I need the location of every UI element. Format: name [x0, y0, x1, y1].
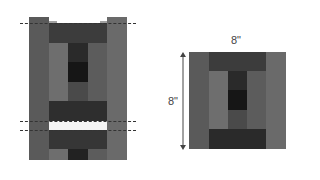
lower-left-strip	[49, 149, 68, 160]
height-dimension-arrow-icon	[180, 52, 186, 150]
block-top-band	[209, 52, 266, 71]
cut-line-mid-1	[20, 121, 136, 122]
left-outer-strip	[29, 17, 49, 160]
center-darkest	[68, 62, 88, 82]
block-mid-left	[209, 71, 228, 129]
block-bottom-band	[209, 129, 266, 149]
cut-line-top	[20, 23, 136, 24]
center-top	[68, 43, 88, 62]
block-left-strip	[189, 52, 209, 149]
quilt-block	[189, 52, 286, 149]
lower-right-strip	[88, 149, 107, 160]
block-center-top	[228, 71, 247, 90]
height-label: 8"	[168, 95, 178, 107]
bottom-band	[49, 101, 107, 121]
right-outer-strip	[107, 17, 127, 160]
arrow-left-icon	[41, 10, 57, 14]
mid-right-strip	[88, 43, 107, 101]
lower-band	[49, 130, 107, 149]
block-center-bottom	[228, 110, 247, 129]
cut-gap	[49, 121, 107, 130]
cut-line-mid-2	[20, 130, 136, 131]
mid-left-strip	[49, 43, 68, 101]
lower-center	[68, 149, 88, 160]
width-label: 8"	[231, 34, 241, 46]
center-bottom	[68, 82, 88, 101]
block-center-darkest	[228, 90, 247, 110]
block-mid-right	[247, 71, 266, 129]
block-right-strip	[266, 52, 286, 149]
arrow-right-icon	[100, 10, 116, 14]
top-band	[49, 23, 107, 43]
